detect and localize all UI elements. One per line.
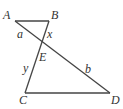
point-label-e: E <box>38 50 47 64</box>
segment-label-x: x <box>46 27 53 41</box>
point-label-b: B <box>51 8 59 22</box>
point-label-d: D <box>110 93 120 107</box>
segment-label-b: b <box>85 62 91 76</box>
point-label-a: A <box>2 8 11 22</box>
geometry-diagram: A B E C D a x y b <box>0 0 123 109</box>
segment-label-a: a <box>17 27 23 41</box>
segment-label-y: y <box>22 61 29 75</box>
point-label-c: C <box>19 93 28 107</box>
